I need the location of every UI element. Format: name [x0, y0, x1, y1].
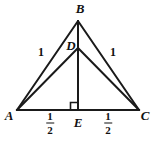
fraction-denominator: 2 — [104, 124, 112, 136]
right-angle-marker — [71, 103, 79, 111]
length-label-ab: 1 — [38, 46, 44, 58]
length-label-ec: 1 2 — [104, 111, 112, 136]
geometry-figure: A B C D E 1 1 1 2 1 2 — [0, 0, 152, 141]
vertex-label-E: E — [74, 116, 83, 129]
fraction-numerator: 1 — [46, 111, 54, 123]
vertex-label-A: A — [5, 109, 14, 122]
length-label-bc: 1 — [110, 46, 116, 58]
fraction-numerator: 1 — [104, 111, 112, 123]
vertex-label-D: D — [66, 39, 75, 52]
vertex-label-B: B — [76, 2, 85, 15]
segment-AD — [17, 48, 78, 110]
segment-DC — [78, 48, 139, 110]
fraction-denominator: 2 — [46, 124, 54, 136]
segment-AB — [17, 21, 78, 110]
length-label-ae: 1 2 — [46, 111, 54, 136]
segment-BC — [78, 21, 139, 110]
vertex-label-C: C — [141, 109, 150, 122]
